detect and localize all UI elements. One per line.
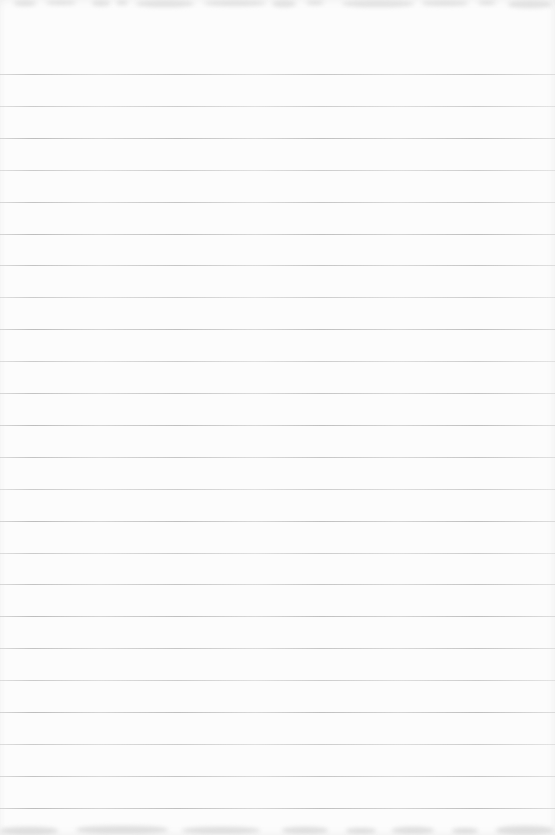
top-edge-ink-showthrough (0, 0, 555, 12)
ink-smudge (204, 0, 266, 6)
rule-line (0, 648, 555, 649)
rule-line (0, 521, 555, 522)
ink-smudge (14, 0, 36, 6)
rule-line (0, 553, 555, 554)
ink-smudge (342, 0, 414, 7)
ink-smudge (0, 827, 58, 835)
rule-line (0, 265, 555, 266)
rule-line (0, 744, 555, 745)
ink-smudge (272, 0, 296, 7)
rule-line (0, 584, 555, 585)
ink-smudge (76, 826, 168, 834)
ink-smudge (478, 0, 496, 5)
rule-line (0, 138, 555, 139)
ink-smudge (422, 0, 468, 6)
rule-line (0, 170, 555, 171)
ink-smudge (346, 828, 376, 834)
rule-line (0, 106, 555, 107)
rule-line (0, 712, 555, 713)
rule-line (0, 457, 555, 458)
ink-smudge (392, 827, 434, 834)
rule-line (0, 202, 555, 203)
rule-line (0, 808, 555, 809)
ink-smudge (182, 827, 260, 834)
rule-line (0, 489, 555, 490)
ink-smudge (92, 0, 110, 6)
ink-smudge (116, 0, 128, 5)
rule-line (0, 776, 555, 777)
rule-line (0, 680, 555, 681)
rule-line (0, 234, 555, 235)
rule-line (0, 329, 555, 330)
notebook-page (0, 0, 555, 835)
rule-line (0, 361, 555, 362)
rule-line (0, 425, 555, 426)
rule-line (0, 74, 555, 75)
rule-line (0, 616, 555, 617)
rule-line (0, 297, 555, 298)
ink-smudge (496, 826, 554, 835)
ink-smudge (306, 0, 324, 5)
ink-smudge (282, 827, 328, 834)
rule-line (0, 393, 555, 394)
ink-smudge (46, 0, 76, 5)
ink-smudge (508, 0, 552, 8)
bottom-edge-ink-showthrough (0, 821, 555, 835)
ink-smudge (452, 828, 478, 834)
ink-smudge (136, 0, 194, 7)
ruled-lines (0, 0, 555, 835)
